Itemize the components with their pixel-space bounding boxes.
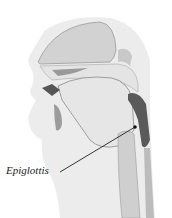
head-throat-section-illustration: [0, 0, 172, 218]
epiglottis-label: Epiglottis: [6, 164, 49, 176]
